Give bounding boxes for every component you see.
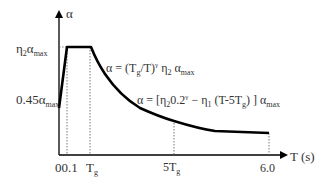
equation-descending: α = (Tg/T)γ η2 αmax xyxy=(106,62,195,77)
x-tick-0-0.1: 00.1 xyxy=(55,161,78,174)
y-tick-0.45-alphamax: 0.45αmax xyxy=(16,93,59,109)
x-tick-5tg: 5Tg xyxy=(163,161,180,176)
x-tick-6.0: 6.0 xyxy=(260,162,275,174)
y-axis-label: α xyxy=(66,7,73,20)
spectrum-curve xyxy=(59,47,269,133)
response-spectrum-diagram: α η2αmax 0.45αmax 00.1 Tg 5Tg 6.0 T (s) … xyxy=(0,0,327,188)
x-axis-label: T (s) xyxy=(290,150,315,163)
x-tick-tg: Tg xyxy=(86,161,98,177)
equation-linear: α = [η20.2γ − η1 (T-5Tg) ] αmax xyxy=(137,94,280,109)
y-tick-eta2-alphamax: η2αmax xyxy=(16,42,47,58)
